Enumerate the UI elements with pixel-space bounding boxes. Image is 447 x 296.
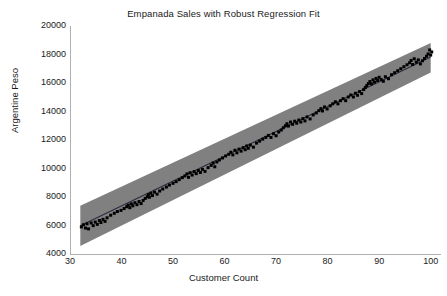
scatter-point	[344, 99, 347, 102]
scatter-point	[175, 180, 178, 183]
scatter-point	[261, 138, 264, 141]
scatter-point	[430, 50, 433, 53]
scatter-point	[178, 178, 181, 181]
scatter-point	[161, 188, 164, 191]
scatter-point	[187, 176, 190, 179]
scatter-point	[396, 69, 399, 72]
scatter-point	[106, 216, 109, 219]
scatter-point	[99, 221, 102, 224]
scatter-point	[123, 207, 126, 210]
scatter-point	[215, 160, 218, 163]
scatter-point	[429, 54, 432, 57]
scatter-point	[306, 115, 309, 118]
scatter-point	[370, 82, 373, 85]
scatter-point	[399, 67, 402, 70]
scatter-point	[128, 206, 131, 209]
scatter-point	[87, 227, 90, 230]
scatter-point	[172, 182, 175, 185]
scatter-point	[299, 121, 302, 124]
scatter-point	[231, 153, 234, 156]
scatter-point	[181, 176, 184, 179]
scatter-point	[249, 144, 252, 147]
scatter-point	[321, 109, 324, 112]
scatter-point	[303, 119, 306, 122]
scatter-point	[140, 202, 143, 205]
scatter-point	[191, 174, 194, 177]
scatter-point	[233, 149, 236, 152]
scatter-point	[109, 214, 112, 217]
scatter-point	[86, 222, 89, 225]
scatter-point	[255, 142, 258, 145]
scatter-point	[104, 220, 107, 223]
scatter-point	[387, 77, 390, 80]
scatter-point	[349, 93, 352, 96]
scatter-point	[158, 190, 161, 193]
scatter-point	[334, 100, 337, 103]
scatter-point	[329, 104, 332, 107]
scatter-point	[376, 79, 379, 82]
scatter-point	[201, 168, 204, 171]
scatter-point	[411, 63, 414, 66]
scatter-point	[185, 172, 188, 175]
scatter-point	[244, 148, 247, 151]
scatter-point	[153, 191, 156, 194]
scatter-point	[229, 151, 232, 154]
scatter-point	[382, 80, 385, 83]
scatter-point	[402, 65, 405, 68]
scatter-point	[168, 184, 171, 187]
scatter-point	[390, 73, 393, 76]
scatter-point	[147, 193, 150, 196]
scatter-point	[384, 75, 387, 78]
scatter-point	[221, 156, 224, 159]
scatter-point	[413, 57, 416, 60]
scatter-point	[312, 113, 315, 116]
scatter-point	[84, 227, 87, 230]
scatter-point	[326, 107, 329, 110]
scatter-point	[417, 58, 420, 61]
scatter-point	[252, 146, 255, 149]
scatter-point	[148, 196, 151, 199]
scatter-point	[331, 102, 334, 105]
scatter-point	[224, 154, 227, 157]
scatter-point	[352, 95, 355, 98]
scatter-point	[156, 193, 159, 196]
scatter-point	[240, 150, 243, 153]
scatter-point	[195, 172, 198, 175]
scatter-point	[419, 62, 422, 65]
scatter-point	[347, 95, 350, 98]
scatter-point	[151, 194, 154, 197]
scatter-point	[427, 52, 430, 55]
scatter-point	[393, 71, 396, 74]
scatter-point	[165, 186, 168, 189]
scatter-point	[127, 204, 130, 207]
scatter-point	[264, 136, 267, 139]
scatter-point	[92, 224, 95, 227]
scatter-point	[199, 171, 202, 174]
plot-area	[0, 0, 447, 296]
scatter-point	[309, 117, 312, 120]
scatter-point	[410, 59, 413, 62]
scatter-point	[323, 105, 326, 108]
scatter-point	[336, 102, 339, 105]
regression-fit-line	[80, 57, 430, 226]
scatter-point	[120, 209, 123, 212]
scatter-point	[207, 166, 210, 169]
scatter-point	[373, 81, 376, 84]
scatter-point	[342, 97, 345, 100]
scatter-point	[96, 223, 99, 226]
scatter-point	[135, 203, 138, 206]
scatter-point	[116, 210, 119, 213]
scatter-point	[356, 94, 359, 97]
scatter-point	[315, 111, 318, 114]
scatter-point	[212, 162, 215, 165]
scatter-point	[247, 147, 250, 150]
scatter-point	[339, 99, 342, 102]
scatter-point	[269, 136, 272, 139]
scatter-point	[213, 165, 216, 168]
scatter-point	[258, 140, 261, 143]
scatter-point	[204, 170, 207, 173]
scatter-point	[267, 134, 270, 137]
scatter-point	[360, 92, 363, 95]
scatter-point	[113, 212, 116, 215]
scatter-point	[90, 221, 93, 224]
